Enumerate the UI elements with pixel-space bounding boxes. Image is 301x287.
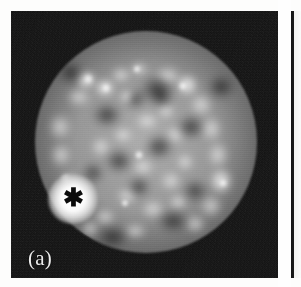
figure-root: ✱ (a) (0, 0, 301, 287)
scan-image-panel: ✱ (a) (11, 11, 278, 278)
image-grain-overlay (11, 11, 278, 278)
panel-gutter (278, 0, 291, 287)
adjacent-panel-edge (291, 11, 301, 278)
panel-label: (a) (28, 248, 52, 269)
asterisk-marker-icon: ✱ (63, 184, 83, 210)
